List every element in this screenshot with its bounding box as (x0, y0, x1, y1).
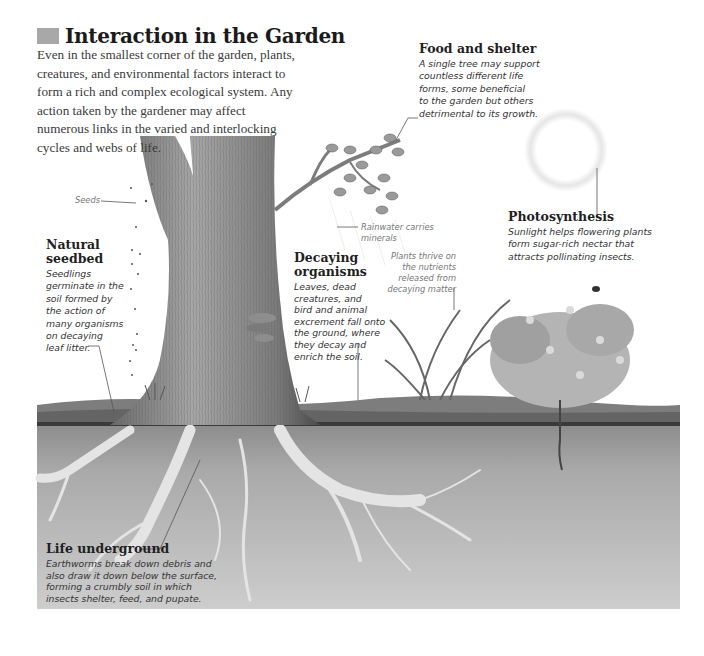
callout-line: germinate in the (46, 280, 136, 292)
label-line: the nutrients (380, 262, 456, 273)
callout-line: leaf litter. (46, 342, 136, 354)
callout-food-shelter: Food and shelter A single tree may suppo… (419, 42, 609, 120)
intro-paragraph: Even in the smallest corner of the garde… (37, 46, 299, 158)
callout-line: to the garden but others (419, 95, 609, 107)
label-rainwater: Rainwater carries minerals (361, 222, 434, 244)
callout-line: also draw it down below the surface, (46, 570, 246, 582)
bee-icon (592, 286, 600, 292)
callout-heading: Photosynthesis (508, 210, 678, 224)
callout-line: Sunlight helps flowering plants (508, 226, 678, 238)
callout-line: detrimental to its growth. (419, 108, 609, 120)
callout-line: enrich the soil. (294, 351, 414, 363)
callout-life-underground: Life underground Earthworms break down d… (46, 542, 246, 604)
callout-line: many organisms (46, 318, 136, 330)
callout-body: Sunlight helps flowering plants form sug… (508, 226, 678, 263)
callout-line: on decaying (46, 330, 136, 342)
callout-line: countless different life (419, 70, 609, 82)
label-seeds: Seeds (75, 195, 100, 206)
callout-line: soil formed by (46, 293, 136, 305)
tree-trunk (110, 136, 320, 425)
callout-line: A single tree may support (419, 58, 609, 70)
sun-icon (524, 108, 608, 192)
callout-line: forms, some beneficial (419, 83, 609, 95)
page-title: Interaction in the Garden (65, 24, 345, 48)
callout-line: Seedlings (46, 268, 136, 280)
label-line: Plants thrive on (380, 251, 456, 262)
label-plants-thrive: Plants thrive on the nutrients released … (380, 251, 456, 295)
callout-heading-line: seedbed (46, 252, 136, 266)
callout-body: A single tree may support countless diff… (419, 58, 609, 120)
callout-line: insects shelter, feed, and pupate. (46, 593, 246, 605)
callout-line: bird and animal (294, 304, 414, 316)
title-swatch (37, 28, 59, 44)
callout-line: they decay and (294, 339, 414, 351)
callout-photosynthesis: Photosynthesis Sunlight helps flowering … (508, 210, 678, 263)
callout-line: forming a crumbly soil in which (46, 581, 246, 593)
callout-line: the ground, where (294, 327, 414, 339)
callout-body: Seedlings germinate in the soil formed b… (46, 268, 136, 355)
callout-heading: Life underground (46, 542, 246, 556)
callout-line: the action of (46, 305, 136, 317)
callout-heading: Natural seedbed (46, 238, 136, 266)
label-line: decaying matter (380, 284, 456, 295)
callout-line: excrement fall onto (294, 316, 414, 328)
callout-body: Earthworms break down debris and also dr… (46, 558, 246, 604)
label-line: minerals (361, 233, 434, 244)
callout-line: Earthworms break down debris and (46, 558, 246, 570)
callout-line: form sugar-rich nectar that (508, 238, 678, 250)
title-row: Interaction in the Garden (37, 24, 345, 48)
callout-heading: Food and shelter (419, 42, 609, 56)
label-line: Rainwater carries (361, 222, 434, 233)
callout-line: attracts pollinating insects. (508, 251, 678, 263)
callout-heading-line: Natural (46, 238, 136, 252)
callout-natural-seedbed: Natural seedbed Seedlings germinate in t… (46, 238, 136, 355)
label-line: released from (380, 273, 456, 284)
